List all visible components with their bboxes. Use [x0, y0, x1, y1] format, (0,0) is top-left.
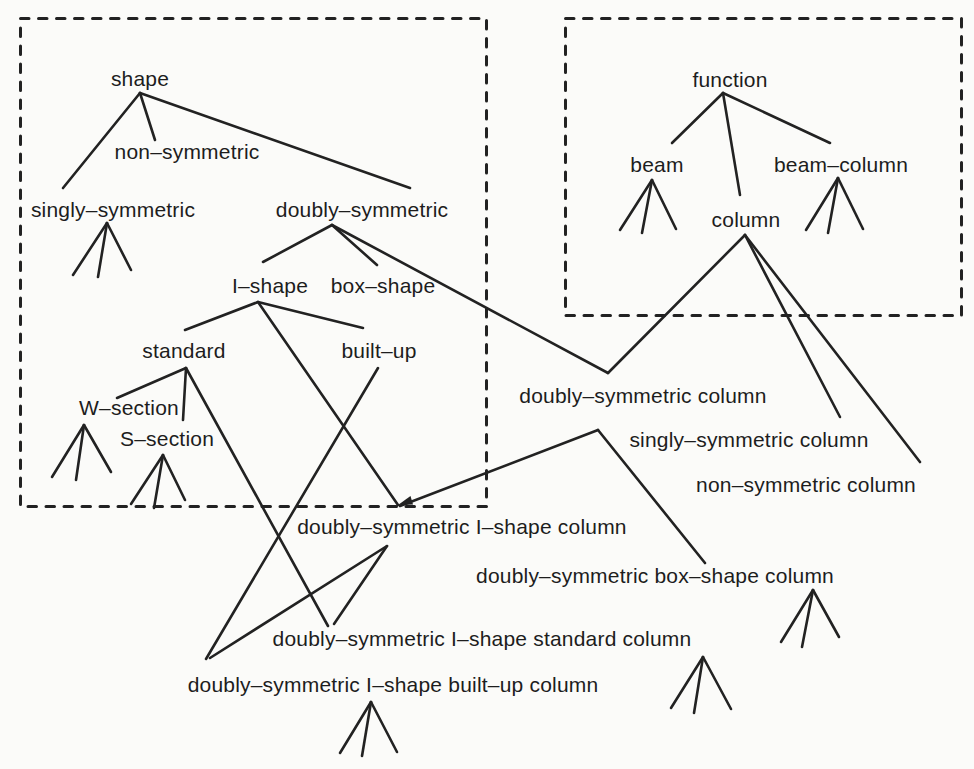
- edge-standard-s-section: [183, 368, 186, 420]
- fan-leg: [813, 590, 839, 637]
- node-doubly-symmetric: doubly–symmetric: [276, 199, 448, 221]
- subtree-marker-beam: [620, 180, 676, 233]
- node-built-up: built–up: [341, 340, 416, 362]
- subtree-marker-beam-column: [806, 178, 863, 233]
- edge-function-beam-column: [723, 93, 830, 143]
- node-standard: standard: [142, 340, 225, 362]
- node-non-symmetric-column: non–symmetric column: [696, 474, 916, 496]
- edge-function-column: [723, 93, 740, 195]
- subtree-marker-ds-i-shape-built-up-column: [340, 702, 397, 756]
- node-doubly-symmetric-column: doubly–symmetric column: [519, 385, 766, 407]
- node-box-shape: box–shape: [331, 275, 436, 297]
- taxonomy-diagram: shape non–symmetric singly–symmetric dou…: [0, 0, 974, 769]
- edge-i-shape-standard: [185, 302, 258, 330]
- node-ds-i-shape-built-up-column: doubly–symmetric I–shape built–up column: [188, 674, 599, 696]
- node-singly-symmetric-column: singly–symmetric column: [629, 429, 868, 451]
- arrowhead-ds-i-shape-column: [398, 496, 413, 505]
- edge-function-beam: [672, 93, 723, 143]
- edge-built-up-ds-i-shape-built-up-column: [206, 368, 378, 659]
- edge-ds-i-shape-column-standard-column: [334, 546, 387, 624]
- fan-leg: [107, 223, 131, 270]
- fan-leg: [84, 425, 111, 472]
- node-s-section: S–section: [120, 428, 214, 450]
- shape-group-dashed-box: [21, 19, 487, 507]
- fan-leg: [652, 180, 676, 229]
- fan-leg: [163, 455, 185, 500]
- node-beam-column: beam–column: [774, 154, 908, 176]
- node-w-section: W–section: [79, 397, 179, 419]
- node-shape: shape: [111, 68, 169, 90]
- node-function: function: [692, 69, 767, 91]
- subtree-marker-singly-symmetric: [73, 223, 131, 277]
- subtree-marker-ds-i-shape-standard-column: [671, 657, 731, 713]
- edge-standard-w-section: [117, 368, 186, 398]
- fan-leg: [838, 178, 863, 229]
- node-singly-symmetric: singly–symmetric: [31, 199, 195, 221]
- node-ds-i-shape-standard-column: doubly–symmetric I–shape standard column: [273, 628, 692, 650]
- edge-shape-non-symmetric: [140, 93, 155, 140]
- edge-ds-column-ds-i-shape-column: [400, 430, 598, 506]
- diagram-lines: [0, 0, 974, 769]
- node-beam: beam: [630, 154, 683, 176]
- node-column: column: [712, 209, 781, 231]
- node-ds-box-shape-column: doubly–symmetric box–shape column: [476, 565, 834, 587]
- fan-leg: [371, 702, 397, 752]
- node-ds-i-shape-column: doubly–symmetric I–shape column: [297, 516, 627, 538]
- edge-i-shape-ds-i-shape-column: [258, 302, 398, 505]
- node-non-symmetric: non–symmetric: [115, 141, 260, 163]
- edge-doubly-symmetric-i-shape: [263, 225, 332, 262]
- subtree-marker-s-section: [131, 455, 185, 508]
- subtree-marker-ds-box-shape-column: [781, 590, 839, 647]
- fan-leg: [703, 657, 731, 709]
- edge-standard-ds-i-shape-standard-column: [186, 368, 328, 626]
- subtree-marker-w-section: [52, 425, 111, 480]
- edge-column-doubly-symmetric-column: [608, 235, 745, 373]
- node-i-shape: I–shape: [232, 275, 308, 297]
